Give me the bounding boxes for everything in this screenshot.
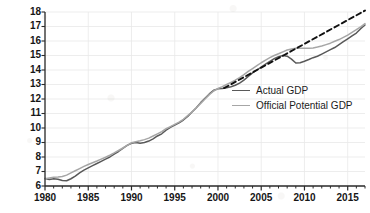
- x-tick-label: 2015: [332, 192, 364, 203]
- y-tick-label: 8: [16, 151, 41, 162]
- x-tick-label: 1995: [159, 192, 191, 203]
- legend-swatch-actual-gdp: [232, 90, 250, 91]
- gdp-chart: Trillions of Dollars 6789101112131415161…: [0, 0, 370, 213]
- y-tick-label: 7: [16, 165, 41, 176]
- x-tick-label: 1985: [72, 192, 104, 203]
- y-tick-label: 17: [16, 20, 41, 31]
- x-tick-label: 2000: [202, 192, 234, 203]
- series-line-pre-recession-trend: [224, 11, 365, 89]
- x-tick-label: 1990: [116, 192, 148, 203]
- chart-legend: Actual GDP Official Potential GDP: [232, 84, 366, 113]
- y-tick-label: 10: [16, 122, 41, 133]
- y-tick-label: 9: [16, 136, 41, 147]
- legend-item-actual-gdp: Actual GDP: [232, 84, 366, 98]
- y-tick-label: 12: [16, 93, 41, 104]
- y-tick-label: 18: [16, 6, 41, 17]
- y-tick-label: 15: [16, 49, 41, 60]
- y-tick-label: 16: [16, 35, 41, 46]
- legend-label-official-potential-gdp: Official Potential GDP: [256, 99, 353, 113]
- x-tick-label: 1980: [29, 192, 61, 203]
- legend-label-actual-gdp: Actual GDP: [256, 84, 308, 98]
- x-tick-label: 2010: [289, 192, 321, 203]
- legend-swatch-official-potential-gdp: [232, 105, 250, 106]
- y-tick-label: 14: [16, 64, 41, 75]
- y-tick-label: 6: [16, 180, 41, 191]
- y-tick-label: 11: [16, 107, 41, 118]
- legend-item-official-potential-gdp: Official Potential GDP: [232, 99, 366, 113]
- y-tick-label: 13: [16, 78, 41, 89]
- x-tick-label: 2005: [245, 192, 277, 203]
